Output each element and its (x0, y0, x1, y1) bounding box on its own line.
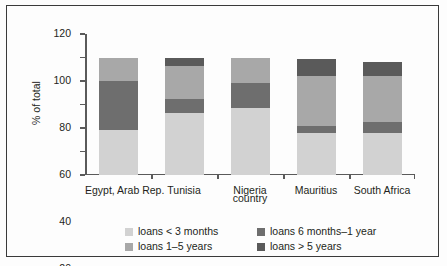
y-axis-line (85, 34, 87, 175)
figure: % of total 020406080100120 Egypt, Arab R… (0, 0, 447, 266)
legend-label: loans < 3 months (138, 226, 218, 237)
legend-swatch (257, 228, 265, 236)
bar-stack (165, 34, 204, 175)
x-axis-tick (414, 174, 416, 179)
legend-item: loans 6 months–1 year (257, 226, 395, 237)
bar-segment (165, 99, 204, 113)
chart-frame: % of total 020406080100120 Egypt, Arab R… (6, 5, 439, 257)
legend-label: loans 6 months–1 year (270, 226, 376, 237)
bar-segment (231, 58, 270, 84)
legend-label: loans 1–5 years (138, 241, 212, 252)
x-axis-tick (217, 174, 219, 179)
legend-item: loans < 3 months (125, 226, 257, 237)
legend-swatch (257, 243, 265, 251)
legend-item: loans > 5 years (257, 241, 395, 252)
bar-segment (363, 62, 402, 76)
bar-segment (297, 133, 336, 175)
y-axis-tick-label: 120 (53, 28, 71, 38)
bar-segment (99, 130, 138, 175)
bar-stack (231, 34, 270, 175)
y-axis-label-wrap: % of total (29, 64, 43, 144)
bar-segment (297, 76, 336, 125)
x-axis-tick (283, 174, 285, 179)
y-axis-tick-label: 60 (59, 169, 71, 179)
y-axis-tick-label: 40 (59, 216, 71, 226)
legend-swatch (125, 228, 133, 236)
bar-segment (231, 108, 270, 175)
y-axis-tick: 120 (80, 33, 85, 35)
bar-segment (99, 58, 138, 82)
bar-segment (363, 122, 402, 133)
legend-swatch (125, 243, 133, 251)
y-axis-tick-label: 80 (59, 122, 71, 132)
y-axis-tick: 0 (80, 174, 85, 176)
bar-segment (363, 76, 402, 122)
y-axis-tick-label: 100 (53, 75, 71, 85)
chart-legend: loans < 3 monthsloans 6 months–1 yearloa… (125, 224, 395, 254)
bar-stack (99, 34, 138, 175)
bar-segment (99, 81, 138, 130)
y-axis-tick: 40 (80, 127, 85, 129)
x-axis-tick (151, 174, 153, 179)
bar-segment (231, 83, 270, 108)
legend-label: loans > 5 years (270, 241, 342, 252)
x-axis-label: country (85, 192, 415, 204)
bar-stack (363, 34, 402, 175)
bar-segment (363, 133, 402, 175)
plot-area: 020406080100120 Egypt, Arab Rep.TunisiaN… (85, 34, 415, 175)
y-axis-tick: 20 (80, 151, 85, 153)
legend-item: loans 1–5 years (125, 241, 257, 252)
bar-segment (165, 66, 204, 99)
y-axis-label: % of total (30, 63, 42, 143)
bar-stack (297, 34, 336, 175)
y-axis-tick: 100 (80, 57, 85, 59)
y-axis-tick: 80 (80, 80, 85, 82)
bar-segment (165, 58, 204, 66)
bar-segment (297, 126, 336, 133)
y-axis-tick: 60 (80, 104, 85, 106)
bar-segment (165, 113, 204, 175)
bar-segment (297, 59, 336, 77)
x-axis-tick (349, 174, 351, 179)
